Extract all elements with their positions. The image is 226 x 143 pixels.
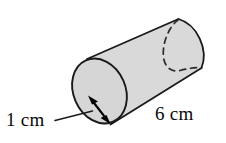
cylinder-figure: 1 cm 6 cm <box>0 0 226 143</box>
length-dimension-label: 6 cm <box>155 104 194 123</box>
radius-dimension-label: 1 cm <box>6 110 45 129</box>
